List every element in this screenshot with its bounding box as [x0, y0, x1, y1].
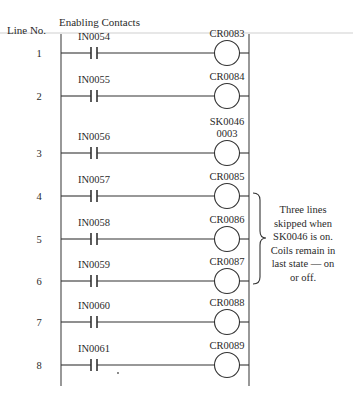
line-number: 4	[36, 191, 42, 202]
coil-label: CR0083	[209, 28, 244, 39]
coil-icon	[215, 353, 240, 378]
coil-label: CR0087	[209, 256, 244, 267]
rungs: 1IN0054CR00832IN0055CR00843IN0056SK00460…	[36, 28, 249, 378]
annotation-line: or off.	[290, 272, 316, 283]
coil-icon	[215, 269, 240, 294]
contact-label: IN0056	[78, 131, 110, 142]
line-number: 6	[36, 276, 41, 287]
annotation-line: Three lines	[280, 204, 327, 215]
contact-label: IN0057	[78, 174, 110, 185]
line-number: 3	[36, 148, 41, 159]
coil-icon	[215, 184, 240, 209]
annotation-line: Coils remain in	[271, 245, 336, 256]
normally-open-contact-icon	[91, 316, 97, 328]
rung: 3IN0056SK00460003	[36, 116, 249, 166]
annotation-line: last state — on	[272, 258, 335, 269]
rung: 1IN0054CR0083	[36, 28, 249, 66]
line-number: 5	[36, 234, 41, 245]
contact-label: IN0054	[78, 31, 111, 42]
stray-mark	[117, 372, 119, 374]
rung: 5IN0058CR0086	[36, 214, 249, 252]
coil-label: CR0088	[209, 297, 244, 308]
annotation-line: skipped when	[274, 218, 333, 229]
line-number: 2	[36, 91, 41, 102]
normally-open-contact-icon	[91, 90, 97, 102]
coil-label: CR0085	[209, 171, 244, 182]
normally-open-contact-icon	[91, 190, 97, 202]
coil-label: CR0086	[209, 214, 244, 225]
coil-icon	[215, 310, 240, 335]
coil-label: CR0089	[209, 340, 244, 351]
annotation-line: SK0046 is on.	[273, 231, 333, 242]
contact-label: IN0060	[78, 300, 110, 311]
coil-label: SK0046	[210, 116, 244, 127]
normally-open-contact-icon	[91, 147, 97, 159]
normally-open-contact-icon	[91, 47, 97, 59]
rung: 4IN0057CR0085	[36, 171, 249, 209]
line-no-header: Line No.	[7, 24, 46, 36]
coil-icon	[215, 84, 240, 109]
normally-open-contact-icon	[91, 233, 97, 245]
skip-annotation: Three linesskipped whenSK0046 is on.Coil…	[271, 204, 336, 283]
line-number: 1	[36, 48, 41, 59]
coil-icon	[215, 227, 240, 252]
contact-label: IN0061	[78, 343, 110, 354]
rung: 2IN0055CR0084	[36, 71, 249, 109]
curly-brace	[253, 193, 266, 284]
rung: 6IN0059CR0087	[36, 256, 249, 294]
rung: 8IN0061CR0089	[36, 340, 249, 378]
contact-label: IN0055	[78, 74, 110, 85]
enabling-contacts-header: Enabling Contacts	[59, 16, 140, 28]
normally-open-contact-icon	[91, 359, 97, 371]
line-number: 7	[36, 317, 41, 328]
coil-label: 0003	[217, 128, 238, 139]
contact-label: IN0058	[78, 217, 110, 228]
line-number: 8	[36, 360, 41, 371]
rung: 7IN0060CR0088	[36, 297, 249, 335]
coil-icon	[215, 141, 240, 166]
normally-open-contact-icon	[91, 275, 97, 287]
coil-label: CR0084	[209, 71, 245, 82]
contact-label: IN0059	[78, 259, 110, 270]
coil-icon	[215, 41, 240, 66]
ladder-diagram: Line No. Enabling Contacts 1IN0054CR0083…	[0, 0, 353, 407]
